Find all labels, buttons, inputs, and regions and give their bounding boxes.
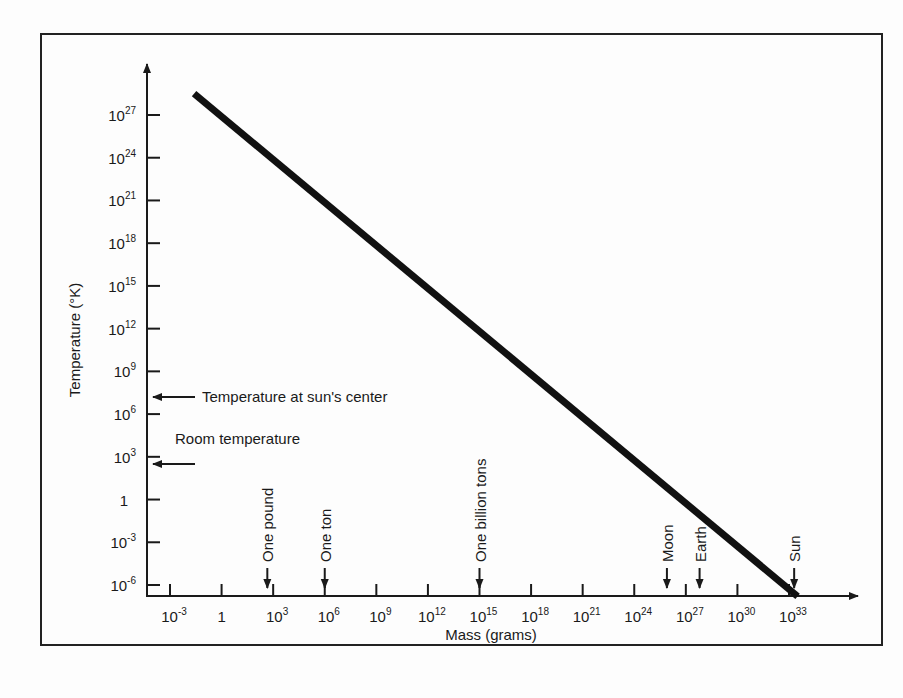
x-tick-label: 1021 [573,606,601,625]
y-ticks: 102710241021101810151012109106103110-310… [108,105,160,594]
y-tick-label: 103 [114,447,137,466]
x-tick-label: 1018 [521,606,549,625]
x-tick-label: 1030 [728,606,756,625]
y-tick-label: 1021 [108,190,136,209]
y-tick-label: 1015 [108,276,136,295]
y-axis-label: Temperature (°K) [66,283,83,397]
x-tick-label: 1 [217,608,225,625]
x-tick-label: 1015 [470,606,498,625]
x-tick-label: 1033 [779,606,807,625]
y-tick-label: 106 [114,404,137,423]
x-axis-label: Mass (grams) [445,626,537,643]
y-annotations: Temperature at sun's centerRoom temperat… [153,388,387,464]
mass-annotation-label: One pound [259,488,276,562]
y-tick-label: 10-3 [110,532,136,551]
y-tick-label: 1012 [108,319,136,338]
data-series [194,94,798,597]
mass-annotation-label: One billion tons [472,459,489,562]
y-tick-label: 1024 [108,148,136,167]
y-tick-label: 109 [114,361,137,380]
x-tick-label: 1027 [676,606,704,625]
x-tick-label: 106 [318,606,341,625]
temperature-annotation-label: Temperature at sun's center [202,388,387,405]
y-tick-label: 1018 [108,233,136,252]
x-tick-label: 103 [266,606,289,625]
x-annotations: One poundOne tonOne billion tonsMoonEart… [259,459,803,588]
mass-annotation-label: Earth [692,526,709,562]
y-tick-label: 10-6 [110,575,136,594]
x-tick-label: 1012 [418,606,446,625]
x-ticks: 10-3110310610910121015101810211024102710… [161,584,807,625]
y-tick-label: 1 [120,492,128,509]
x-tick-label: 1024 [624,606,652,625]
mass-annotation-label: Sun [786,535,803,562]
mass-temperature-chart: 102710241021101810151012109106103110-310… [0,0,903,698]
mass-annotation-label: One ton [317,509,334,562]
x-tick-label: 10-3 [161,606,187,625]
y-tick-label: 1027 [108,105,136,124]
temperature-annotation-label: Room temperature [175,430,300,447]
temperature-mass-line [194,94,798,597]
mass-annotation-label: Moon [659,524,676,562]
x-tick-label: 109 [369,606,392,625]
